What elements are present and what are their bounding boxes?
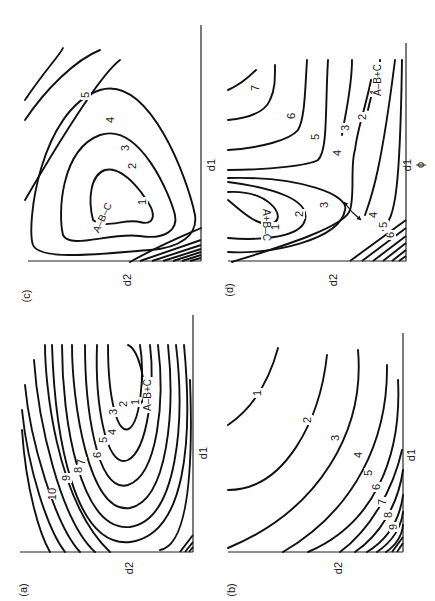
contour-level-label: 4 [106,429,118,435]
contour-level-label: 6 [384,232,396,238]
y-axis-label: d2 [327,274,339,286]
contour-level-label: 7 [249,85,261,91]
contour-line [228,350,359,548]
panel-a: 12345678910A–B+C(a)d2d1 [17,315,209,597]
contour-level-label: 3 [318,202,330,208]
contour-line [228,348,278,425]
contour-level-label: 6 [285,113,297,119]
contour-level-label: 2 [117,401,129,407]
species-label: A–B–C [91,201,114,234]
contour-level-label: 6 [370,484,382,490]
panel-label: (d) [223,283,235,296]
contour-level-label: 5 [79,92,91,98]
y-axis-label: d2 [332,562,344,574]
panel-label: (c) [20,290,32,303]
x-axis-label: d1 [401,159,413,171]
panel-c: 12345A–B–C(c)d2d1 [20,25,217,302]
contour-level-label: 8 [72,467,84,473]
dense-contour-line [399,256,406,261]
contour-level-label: 10 [46,488,58,500]
x-axis-label: d1 [405,449,417,461]
y-axis-label: d2 [123,562,135,574]
contour-level-label: 9 [387,524,399,530]
contour-level-label: 3 [107,409,119,415]
contour-level-label: 5 [362,470,374,476]
contour-line [62,345,179,527]
contour-level-label: 4 [331,150,343,156]
contour-level-label: 9 [60,475,72,481]
contour-level-label: 3 [329,435,341,441]
contour-level-label: 7 [75,459,87,465]
contour-level-label: 3 [119,145,131,151]
contour-line [160,380,191,550]
contour-line [25,48,63,100]
phi-axis-label: ϕ [414,162,426,168]
contour-level-label: 2 [301,417,313,423]
panel-label: (b) [225,583,237,596]
contour-level-label: 7 [376,499,388,505]
contour-level-label: 2 [356,114,368,120]
x-axis-label: d1 [197,447,209,459]
contour-level-label: 4 [352,452,364,458]
contour-level-label: 5 [309,134,321,140]
contour-figure-canvas: 12345A–B–C(c)d2d11233214455667A+B–CA–B+C… [0,0,435,601]
species-label: A–B+C [142,379,153,411]
panel-b: 123456789(b)d2d1 [225,333,417,597]
contour-level-label: 5 [377,222,389,228]
contour-level-label: 5 [97,437,109,443]
y-axis-label: d2 [121,274,133,286]
contour-level-label: 2 [293,211,305,217]
contour-level-label: 1 [129,399,141,405]
contour-level-label: 4 [104,117,116,123]
panel-d: 1233214455667A+B–CA–B+C(d)d2d1ϕ [223,43,426,297]
contour-level-label: 4 [367,212,379,218]
species-label: A+B–C [261,209,272,241]
contour-level-label: 1 [251,390,263,396]
x-axis-label: d1 [205,159,217,171]
contour-figure: 12345A–B–C(c)d2d11233214455667A+B–CA–B+C… [0,0,435,601]
contour-level-label: 8 [382,512,394,518]
contour-level-label: 2 [126,163,138,169]
contour-level-label: 1 [136,199,148,205]
contour-level-label: 6 [91,452,103,458]
contour-line [228,60,328,170]
contour-line [232,80,371,262]
species-label: A–B+C [372,64,383,96]
panel-label: (a) [17,583,29,596]
contour-level-label: 3 [339,125,351,131]
contour-line [45,345,110,552]
contour-line [283,365,387,552]
